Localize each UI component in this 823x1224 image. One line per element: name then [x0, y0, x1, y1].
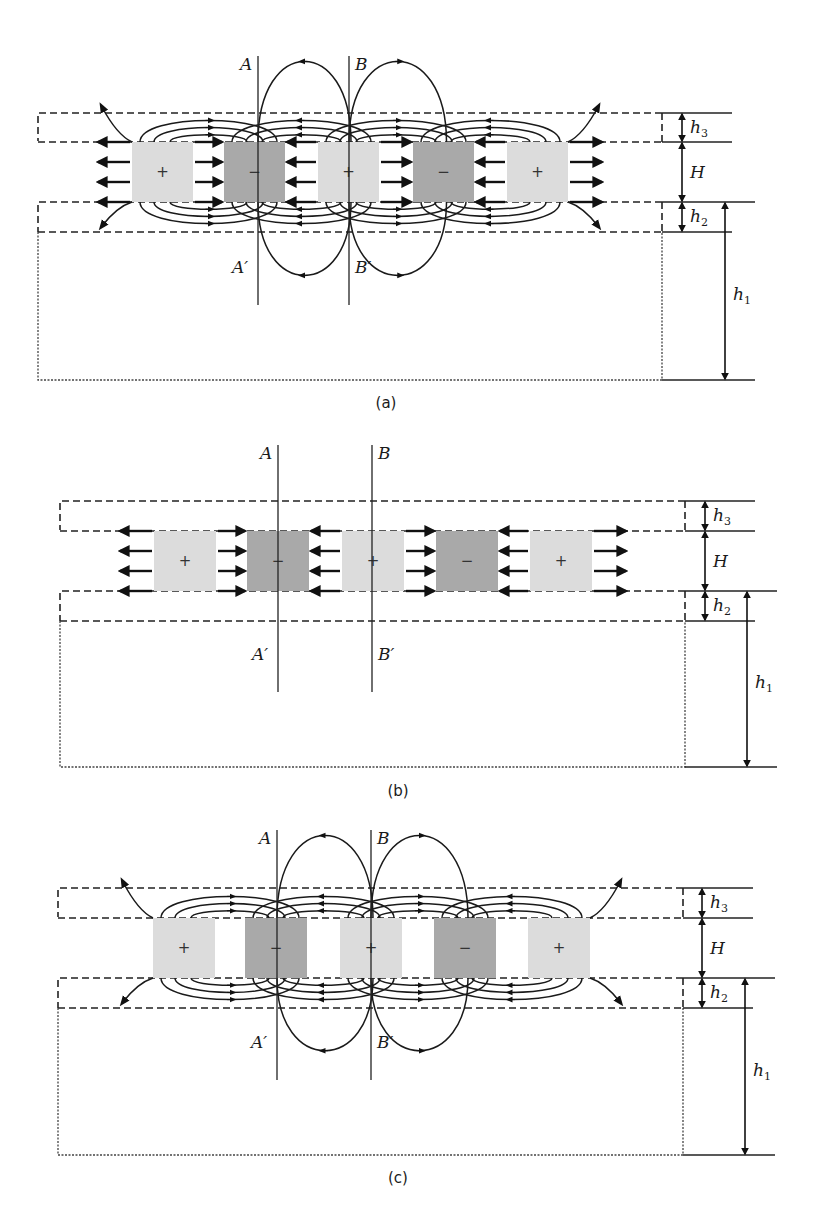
label-B-prime: B′ [376, 1032, 393, 1052]
fringe-loop-top [472, 911, 552, 918]
fringe-loop-top [283, 911, 364, 918]
h-letter: h [690, 117, 701, 137]
fringe-loop-top [421, 120, 560, 142]
h-letter: h [713, 505, 724, 525]
electrode-sign: − [461, 552, 474, 570]
label-h1: h1 [733, 284, 751, 307]
label-h2: h2 [710, 982, 728, 1005]
panel-caption: (a) [376, 394, 397, 412]
fringe-loop-bottom [191, 978, 269, 985]
h-subscript: 1 [764, 1070, 771, 1083]
label-h3: h3 [690, 117, 708, 140]
electrode-sign: + [179, 552, 192, 570]
label-B: B [354, 54, 368, 74]
fringe-loop-top [442, 896, 582, 918]
label-h2: h2 [713, 595, 731, 618]
fringe-loop-bottom [283, 978, 364, 985]
electrode-sign: + [553, 939, 566, 957]
escaping-field-line [123, 978, 153, 1002]
label-h1: h1 [753, 1060, 771, 1083]
h-letter: h [755, 672, 766, 692]
h-subscript: 2 [721, 992, 728, 1005]
label-A-prime: A′ [230, 257, 248, 277]
fringe-loop-bottom [378, 978, 458, 985]
h-subscript: 3 [724, 515, 731, 528]
panel-a: h3Hh2h1+−+−+ABA′B′(a) [38, 54, 755, 412]
fringe-loop-bottom [421, 202, 560, 224]
electrode-sign: − [248, 163, 261, 181]
electrode-sign: − [459, 939, 472, 957]
h-letter: h [733, 284, 744, 304]
escaping-field-line [102, 202, 132, 226]
h-subscript: 1 [744, 294, 751, 307]
h-subscript: 3 [701, 127, 708, 140]
electrode-sign: + [156, 163, 169, 181]
label-B-prime: B′ [377, 644, 394, 664]
label-A: A [257, 828, 271, 848]
fringe-loop-bottom [442, 978, 582, 1000]
electrode-sign: + [367, 552, 380, 570]
h-subscript: 3 [721, 902, 728, 915]
h-letter: h [710, 892, 721, 912]
fringe-loop-bottom [472, 978, 552, 985]
escaping-field-line [568, 202, 598, 226]
h-subscript: 2 [724, 605, 731, 618]
label-A: A [258, 443, 272, 463]
electrode-sign: + [178, 939, 191, 957]
substrate-outline [38, 232, 662, 380]
h-subscript: 2 [701, 216, 708, 229]
fringe-loop-bottom [140, 202, 277, 224]
electrode-field-diagram: h3Hh2h1+−+−+ABA′B′(a)h3Hh2h1+−+−+ABA′B′(… [0, 0, 823, 1224]
label-A: A [238, 54, 252, 74]
fringe-loop-top [378, 911, 458, 918]
label-h3: h3 [710, 892, 728, 915]
h-letter: h [690, 206, 701, 226]
electrode-sign: − [437, 163, 450, 181]
h-letter: h [713, 595, 724, 615]
label-A-prime: A′ [249, 1032, 267, 1052]
fringe-loop-top [140, 120, 277, 142]
fringe-loop-top [191, 911, 269, 918]
label-H: H [689, 162, 706, 182]
electrode-sign: + [555, 552, 568, 570]
panel-b: h3Hh2h1+−+−+ABA′B′(b) [60, 443, 777, 800]
label-H: H [709, 938, 726, 958]
panel-c: h3Hh2h1+−+−+ABA′B′(c) [58, 828, 775, 1187]
label-B: B [376, 828, 390, 848]
panel-caption: (b) [387, 782, 408, 800]
h-letter: h [753, 1060, 764, 1080]
label-B-prime: B′ [354, 257, 371, 277]
label-h2: h2 [690, 206, 708, 229]
electrode-sign: + [531, 163, 544, 181]
label-B: B [377, 443, 391, 463]
escaping-field-line [590, 978, 620, 1002]
h-subscript: 1 [766, 682, 773, 695]
panel-caption: (c) [388, 1169, 408, 1187]
label-h3: h3 [713, 505, 731, 528]
label-h1: h1 [755, 672, 773, 695]
electrode-sign: − [270, 939, 283, 957]
label-H: H [712, 551, 729, 571]
label-A-prime: A′ [250, 644, 268, 664]
h-letter: h [710, 982, 721, 1002]
